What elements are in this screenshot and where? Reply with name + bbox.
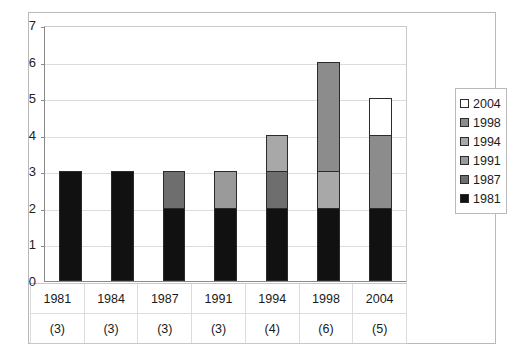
bar-segment[interactable] bbox=[369, 208, 392, 281]
legend-label: 1981 bbox=[473, 193, 501, 205]
x-axis-count-label: (3) bbox=[192, 314, 246, 343]
bar-segment[interactable] bbox=[266, 171, 289, 208]
bar-slot bbox=[45, 27, 97, 281]
bar-segment[interactable] bbox=[163, 171, 186, 208]
stacked-bar[interactable] bbox=[59, 171, 82, 281]
x-axis-category-label: 1981 bbox=[30, 284, 85, 313]
x-axis-count-label: (3) bbox=[85, 314, 139, 343]
bar-segment[interactable] bbox=[214, 208, 237, 281]
x-axis-count-label: (5) bbox=[353, 314, 407, 343]
bar-slot bbox=[97, 27, 149, 281]
bar-segment[interactable] bbox=[214, 171, 237, 208]
y-axis-tick-label: 1 bbox=[14, 238, 36, 251]
stacked-bar[interactable] bbox=[266, 135, 289, 281]
x-axis-category-label: 1991 bbox=[192, 284, 246, 313]
legend-item[interactable]: 1991 bbox=[460, 151, 503, 170]
legend-swatch-icon bbox=[460, 137, 469, 146]
legend-swatch-icon bbox=[460, 194, 469, 203]
legend-item[interactable]: 2004 bbox=[460, 94, 503, 113]
bar-segment[interactable] bbox=[317, 62, 340, 172]
stacked-bar[interactable] bbox=[317, 62, 340, 281]
bar-slot bbox=[148, 27, 200, 281]
x-axis-count-label: (3) bbox=[138, 314, 192, 343]
y-axis-tick-label: 6 bbox=[14, 56, 36, 69]
x-axis-category-label: 1987 bbox=[138, 284, 192, 313]
plot-area bbox=[44, 26, 407, 282]
x-axis-category-label: 2004 bbox=[353, 284, 407, 313]
x-axis-category-label: 1998 bbox=[300, 284, 354, 313]
bar-slot bbox=[200, 27, 252, 281]
x-axis-count-label: (6) bbox=[300, 314, 354, 343]
x-axis-count-row: (3)(3)(3)(3)(4)(6)(5) bbox=[30, 313, 407, 344]
bar-series-container bbox=[45, 27, 406, 281]
y-axis-tick-label: 5 bbox=[14, 92, 36, 105]
legend-swatch-icon bbox=[460, 175, 469, 184]
bar-slot bbox=[303, 27, 355, 281]
stacked-bar[interactable] bbox=[111, 171, 134, 281]
stacked-bar[interactable] bbox=[369, 98, 392, 281]
y-axis-tick-label: 3 bbox=[14, 165, 36, 178]
legend-item[interactable]: 1981 bbox=[460, 189, 503, 208]
chart-legend: 200419981994199119871981 bbox=[455, 88, 507, 214]
x-axis-count-label: (3) bbox=[30, 314, 85, 343]
x-axis-category-row: 1981198419871991199419982004 bbox=[30, 283, 407, 313]
bar-segment[interactable] bbox=[369, 98, 392, 135]
bar-segment[interactable] bbox=[369, 135, 392, 208]
bar-segment[interactable] bbox=[317, 171, 340, 208]
bar-slot bbox=[354, 27, 406, 281]
x-axis-category-label: 1984 bbox=[85, 284, 139, 313]
legend-item[interactable]: 1987 bbox=[460, 170, 503, 189]
bar-segment[interactable] bbox=[317, 208, 340, 281]
legend-item[interactable]: 1998 bbox=[460, 113, 503, 132]
legend-label: 1991 bbox=[473, 155, 501, 167]
legend-label: 1994 bbox=[473, 136, 501, 148]
bar-slot bbox=[251, 27, 303, 281]
y-axis-tick-label: 4 bbox=[14, 129, 36, 142]
legend-label: 2004 bbox=[473, 98, 501, 110]
bar-segment[interactable] bbox=[163, 208, 186, 281]
legend-swatch-icon bbox=[460, 99, 469, 108]
legend-swatch-icon bbox=[460, 118, 469, 127]
stacked-bar[interactable] bbox=[163, 171, 186, 281]
stacked-bar-chart: 1981198419871991199419982004 (3)(3)(3)(3… bbox=[0, 0, 524, 359]
stacked-bar[interactable] bbox=[214, 171, 237, 281]
legend-label: 1998 bbox=[473, 117, 501, 129]
x-axis-label-table: 1981198419871991199419982004 (3)(3)(3)(3… bbox=[30, 283, 407, 341]
legend-label: 1987 bbox=[473, 174, 501, 186]
bar-segment[interactable] bbox=[266, 135, 289, 172]
x-axis-count-label: (4) bbox=[246, 314, 300, 343]
bar-segment[interactable] bbox=[59, 171, 82, 281]
legend-item[interactable]: 1994 bbox=[460, 132, 503, 151]
legend-swatch-icon bbox=[460, 156, 469, 165]
x-axis-category-label: 1994 bbox=[246, 284, 300, 313]
bar-segment[interactable] bbox=[111, 171, 134, 281]
y-axis-tick-label: 0 bbox=[14, 275, 36, 288]
y-axis-tick-label: 2 bbox=[14, 202, 36, 215]
y-axis-tick-label: 7 bbox=[14, 19, 36, 32]
bar-segment[interactable] bbox=[266, 208, 289, 281]
